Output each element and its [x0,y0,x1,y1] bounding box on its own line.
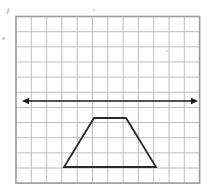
grid-lines [16,17,200,184]
horizontal-double-arrow-line [22,98,198,105]
speck-inner-dot [166,50,168,52]
arrowhead-right-icon [191,98,198,105]
trapezoid-shape [64,118,156,167]
trapezoid-outline [64,118,156,167]
geometry-figure [0,0,219,190]
figure-canvas [0,0,219,190]
speck-top-dot [93,9,95,11]
speck-left-dot [2,37,5,40]
arrowhead-left-icon [22,98,29,105]
speck-bottom-dot [16,179,18,181]
